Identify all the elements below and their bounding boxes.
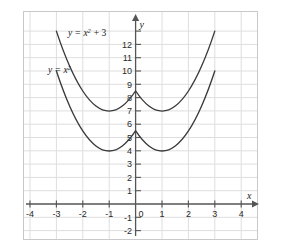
x-tick-label: -2	[79, 209, 87, 219]
curve-label-suffix: + 3	[94, 28, 107, 38]
y-tick-label: 3	[127, 159, 132, 169]
y-tick-label: 4	[127, 146, 132, 156]
y-axis-label: y	[139, 19, 145, 30]
x-tick-label: -1	[105, 209, 113, 219]
curve-label-prefix: y = x	[47, 65, 68, 75]
curve-label-x-squared-plus-3: y = x2+ 3	[67, 27, 107, 39]
coordinate-plane: -4 -3 -2 -1 1 2 3 4 -2 -1 1 2 3 4 5 6 7 …	[0, 0, 282, 252]
x-axis-arrow	[252, 200, 259, 207]
curve-label-exponent: 2	[88, 27, 92, 34]
x-tick-label: -4	[26, 209, 34, 219]
y-tick-label: 1	[127, 186, 132, 196]
y-tick-label: 10	[122, 66, 132, 76]
x-tick-label: 4	[239, 209, 244, 219]
origin-label: 0	[139, 209, 144, 219]
curve-label-prefix: y = x	[67, 28, 88, 38]
x-tick-label: 3	[212, 209, 217, 219]
x-tick-label: -3	[52, 209, 60, 219]
grid-lines	[24, 12, 257, 239]
axes	[26, 14, 259, 236]
x-tick-label: 1	[159, 209, 164, 219]
curve-label-x-squared: y = x2	[47, 64, 72, 76]
y-tick-label: 7	[127, 106, 132, 116]
y-tick-label: 2	[127, 173, 132, 183]
y-tick-label: 6	[127, 119, 132, 129]
x-tick-label: 2	[186, 209, 191, 219]
y-tick-label: -2	[124, 226, 132, 236]
y-tick-label: 11	[123, 53, 132, 63]
x-axis-label: x	[246, 190, 252, 201]
y-tick-label: 12	[122, 40, 132, 50]
y-tick-label: -1	[124, 213, 132, 223]
graph-figure: -4 -3 -2 -1 1 2 3 4 -2 -1 1 2 3 4 5 6 7 …	[0, 0, 282, 252]
y-tick-label: 9	[127, 80, 132, 90]
y-axis-arrow	[132, 14, 139, 21]
